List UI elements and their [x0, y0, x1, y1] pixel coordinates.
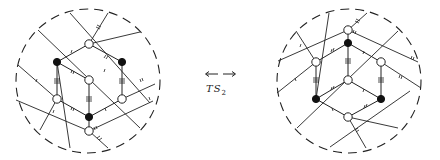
- vertex-white: [344, 113, 352, 121]
- left-disk: [16, 9, 160, 153]
- vertex-black: [312, 95, 319, 102]
- bidirectional-arrow-icon: [204, 69, 238, 79]
- vertex-white: [53, 95, 61, 103]
- vertex-white: [377, 58, 385, 66]
- vertex-black: [344, 39, 351, 46]
- vertex-black: [53, 58, 60, 65]
- right-tick-marks: [295, 19, 414, 132]
- vertex-black: [85, 113, 92, 120]
- right-disk: [277, 9, 421, 153]
- vertex-white: [312, 58, 320, 66]
- vertex-white: [85, 127, 93, 135]
- vertex-white: [85, 40, 93, 48]
- vertex-white: [118, 95, 126, 103]
- vertex-white: [344, 76, 352, 84]
- vertex-white: [344, 26, 352, 34]
- vertex-black: [118, 58, 125, 65]
- vertex-black: [377, 95, 384, 102]
- move-label-main: TS: [206, 83, 222, 94]
- ts2-move-diagram: [0, 0, 440, 160]
- vertex-white: [85, 76, 93, 84]
- move-label-subscript: 2: [222, 89, 227, 97]
- move-label: TS2: [206, 83, 227, 97]
